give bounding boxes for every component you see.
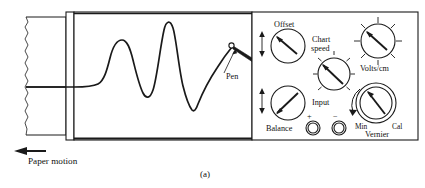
paper-motion-label: Paper motion [28,156,78,166]
input-negative-label: − [333,112,338,121]
recorder-diagram-svg: Pen Paper motion Offset [0,0,425,188]
paper-sheet-upper [26,17,66,87]
paper-motion-group: Paper motion [14,147,78,166]
input-positive-label: + [307,112,312,121]
paper-guide-roller [66,12,74,140]
pen-label: Pen [226,72,238,81]
vernier-cal-label: Cal [392,122,402,131]
paper-sheet-lower [26,87,66,135]
offset-label: Offset [274,20,295,29]
input-negative-jack-inner[interactable] [334,123,344,133]
chart-speed-label-line1: Chart [312,35,331,44]
control-panel-group: Offset [252,12,418,140]
chart-speed-knob[interactable] [318,58,350,90]
chart-window-group [26,12,252,140]
vernier-label: Vernier [365,130,389,139]
volts-per-cm-label: Volts/cm [360,64,390,73]
figure-caption: (a) [200,169,210,179]
pen-tip-icon [229,43,234,48]
chart-speed-label-line2: speed [311,44,330,53]
torn-paper-edge-icon [25,17,28,135]
input-positive-jack-inner[interactable] [308,123,318,133]
paper-motion-arrowhead-icon [14,147,27,155]
figure-chart-recorder: Pen Paper motion Offset [0,0,425,188]
paper-roll-group [25,12,74,140]
input-label: Input [312,98,330,107]
balance-label: Balance [266,124,293,133]
